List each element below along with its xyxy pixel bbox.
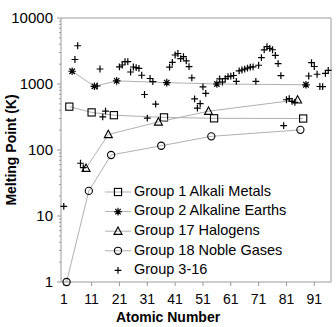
x-tick-label: 1 — [60, 291, 68, 307]
marker-plus — [258, 54, 265, 61]
x-tick-label: 21 — [112, 291, 128, 307]
series-2 — [68, 67, 309, 90]
marker-plus — [144, 115, 151, 122]
marker-plus — [138, 72, 145, 79]
y-tick-label: 1000 — [20, 75, 53, 92]
marker-asterisk — [114, 208, 122, 216]
melting-point-chart: 1000010001001011112131415161718191Atomic… — [0, 0, 336, 327]
legend-entry-5: Group 3-16 — [115, 261, 208, 277]
x-tick-label: 11 — [84, 291, 99, 307]
x-tick-label: 81 — [279, 291, 295, 307]
x-axis-title: Atomic Number — [116, 309, 221, 325]
y-tick-label: 100 — [28, 141, 53, 158]
marker-asterisk — [302, 81, 310, 89]
x-tick-label: 51 — [195, 291, 211, 307]
marker-plus — [252, 78, 259, 85]
x-tick-label: 31 — [139, 291, 155, 307]
marker-plus — [305, 73, 312, 80]
x-tick-label: 41 — [167, 291, 183, 307]
marker-plus — [314, 71, 321, 78]
series-connector — [72, 71, 306, 86]
series-1 — [66, 103, 307, 122]
marker-asterisk — [113, 77, 121, 85]
marker-plus — [280, 122, 287, 129]
legend-label: Group 17 Halogens — [134, 222, 260, 238]
marker-plus — [200, 83, 207, 90]
chart-canvas: 1000010001001011112131415161718191Atomic… — [0, 0, 336, 327]
marker-plus — [188, 75, 195, 82]
marker-plus — [152, 101, 159, 108]
marker-plus — [277, 72, 284, 79]
y-tick-label: 10 — [36, 207, 53, 224]
legend-label: Group 3-16 — [134, 261, 207, 277]
x-tick-label: 91 — [307, 291, 323, 307]
marker-asterisk — [68, 67, 76, 75]
legend-entry-1: Group 1 Alkali Metals — [105, 183, 271, 199]
marker-asterisk — [163, 79, 171, 87]
series-3 — [82, 96, 302, 172]
marker-plus — [74, 42, 81, 49]
legend-entry-4: Group 18 Noble Gases — [105, 242, 282, 258]
legend-label: Group 2 Alkaline Earths — [134, 202, 286, 218]
x-tick-label: 71 — [251, 291, 267, 307]
x-tick-label: 61 — [223, 291, 239, 307]
legend-label: Group 18 Noble Gases — [134, 242, 282, 258]
marker-plus — [202, 90, 209, 97]
marker-plus — [255, 62, 262, 69]
legend-entry-3: Group 17 Halogens — [105, 222, 260, 238]
legend-label: Group 1 Alkali Metals — [134, 183, 271, 199]
legend-entry-2: Group 2 Alkaline Earths — [105, 202, 286, 218]
y-tick-label: 1 — [45, 273, 53, 290]
marker-plus — [141, 91, 148, 98]
marker-plus — [191, 96, 198, 103]
series-connector — [86, 100, 298, 168]
marker-plus — [72, 56, 79, 63]
marker-plus — [186, 63, 193, 70]
marker-plus — [275, 60, 282, 67]
marker-plus — [115, 267, 122, 274]
y-tick-label: 10000 — [11, 9, 53, 26]
marker-plus — [97, 66, 104, 73]
y-axis-title: Melting Point (K) — [3, 94, 19, 205]
